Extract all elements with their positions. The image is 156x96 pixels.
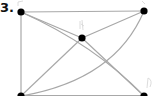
- mark-bottom-right: [147, 78, 151, 88]
- vertex-center: [78, 34, 85, 41]
- edge-center-br: [82, 38, 144, 96]
- edge-tr-center: [82, 11, 144, 38]
- mark-top-right: [142, 1, 145, 4]
- vertex-top-left: [17, 8, 24, 15]
- vertex-top-right: [140, 7, 147, 14]
- mark-center: [80, 20, 84, 30]
- edge-tl-tr: [21, 11, 144, 12]
- mark-top-left: [18, 1, 23, 6]
- graph-diagram: [0, 0, 156, 96]
- edge-center-bl: [21, 38, 82, 96]
